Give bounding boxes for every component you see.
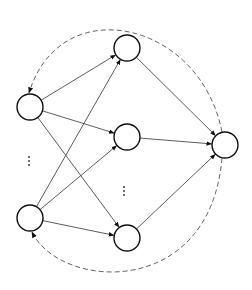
edge-input-bottom-to-hidden-bottom: [43, 221, 114, 236]
node-output: [212, 132, 238, 158]
hidden-ellipsis-icon: [123, 186, 125, 196]
node-hidden-top: [114, 35, 140, 61]
ellipsis-markers: [28, 156, 125, 196]
node-hidden-bottom: [114, 225, 140, 251]
edge-hidden-bottom-to-output: [136, 154, 215, 229]
node-hidden-middle: [114, 124, 140, 150]
edge-input-top-to-hidden-middle: [42, 111, 114, 133]
edge-hidden-middle-to-output: [140, 138, 212, 144]
node-input-top: [17, 94, 43, 120]
edge-input-bottom-to-hidden-middle: [40, 146, 117, 210]
node-input-bottom: [17, 205, 43, 231]
input-ellipsis-icon: [28, 156, 30, 166]
network-diagram: [0, 0, 252, 290]
edge-input-top-to-hidden-top: [41, 55, 115, 100]
edge-hidden-top-to-output: [136, 57, 215, 135]
